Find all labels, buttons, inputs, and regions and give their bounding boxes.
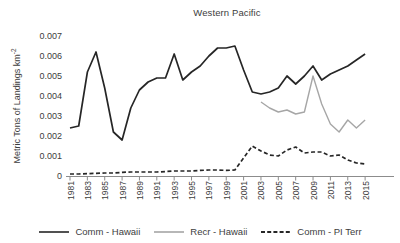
y-tick-label: 0.004	[39, 91, 62, 101]
x-tick-label: 2007	[291, 181, 301, 200]
x-tick-label: 1993	[170, 181, 180, 200]
x-tick-label: 2009	[309, 181, 319, 200]
x-tick-label: 1987	[118, 181, 128, 200]
legend-item: Comm - PI Terr	[260, 226, 361, 237]
x-tick-label: 2013	[343, 181, 353, 200]
y-tick-label: 0	[57, 171, 62, 181]
x-tick-label: 1983	[83, 181, 93, 200]
x-tick-label: 2015	[361, 181, 371, 200]
legend-label: Comm - PI Terr	[297, 226, 361, 237]
series-line-comm-hawaii	[70, 46, 365, 140]
x-tick-label: 1981	[66, 181, 76, 200]
x-tick-label: 2005	[274, 181, 284, 200]
legend-item: Recr - Hawaii	[153, 226, 247, 237]
x-tick-label: 2001	[239, 181, 249, 200]
x-tick-label: 1995	[187, 181, 197, 200]
western-pacific-landings-chart: Western Pacific Metric Tons of Landings …	[0, 0, 400, 243]
y-tick-label: 0.007	[39, 31, 62, 41]
y-tick-label: 0.002	[39, 131, 62, 141]
y-tick-label: 0.001	[39, 151, 62, 161]
legend: Comm - HawaiiRecr - HawaiiComm - PI Terr	[0, 226, 400, 237]
y-tick-label: 0.006	[39, 51, 62, 61]
legend-swatch-solid-line	[153, 227, 185, 237]
legend-label: Comm - Hawaii	[75, 226, 140, 237]
y-tick-label: 0.003	[39, 111, 62, 121]
x-tick-label: 1985	[100, 181, 110, 200]
x-tick-label: 1989	[135, 181, 145, 200]
x-tick-label: 1999	[222, 181, 232, 200]
plot-area: 1981198319851987198919911993199519971999…	[0, 0, 400, 243]
x-tick-label: 1997	[204, 181, 214, 200]
legend-item: Comm - Hawaii	[38, 226, 140, 237]
x-tick-label: 2003	[256, 181, 266, 200]
x-tick-label: 2011	[326, 181, 336, 200]
legend-swatch-dashed-line	[260, 227, 292, 237]
series-line-comm-pi-terr	[70, 146, 365, 174]
legend-label: Recr - Hawaii	[190, 226, 247, 237]
series-line-recr-hawaii	[261, 76, 365, 132]
legend-swatch-solid-line	[38, 227, 70, 237]
x-tick-label: 1991	[152, 181, 162, 200]
y-tick-label: 0.005	[39, 71, 62, 81]
